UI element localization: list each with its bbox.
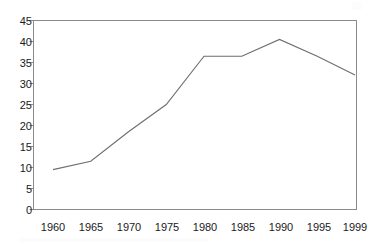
x-tick-label-1985: 1985: [231, 222, 255, 233]
x-tick-label-1975: 1975: [155, 222, 179, 233]
scan-artifact-top-right: [352, 2, 362, 10]
scan-artifact-bottom: [18, 238, 208, 242]
x-tick-label-1960: 1960: [41, 222, 65, 233]
x-tick-label-1980: 1980: [193, 222, 217, 233]
x-tick-label-1970: 1970: [117, 222, 141, 233]
x-tick-label-1999: 1999: [343, 222, 367, 233]
line-chart-figure: 0 5 10 15 20 25 30 35 40 45 1960 1965 19…: [0, 0, 385, 246]
x-tick-label-1990: 1990: [269, 222, 293, 233]
x-tick-label-1965: 1965: [79, 222, 103, 233]
x-axis-label-group: 1960 1965 1970 1975 1980 1985 1990 1995 …: [0, 0, 385, 246]
x-tick-label-1995: 1995: [307, 222, 331, 233]
